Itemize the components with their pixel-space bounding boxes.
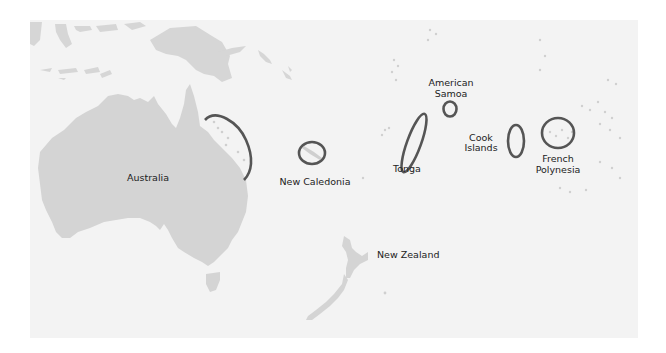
label-new-zealand: New Zealand xyxy=(377,249,439,260)
label-australia: Australia xyxy=(127,172,169,183)
label-american-samoa-line2: Samoa xyxy=(435,88,468,99)
label-american-samoa-line1: American xyxy=(428,77,473,88)
oceania-map: Australia New Caledonia Tonga American S… xyxy=(0,0,666,353)
label-new-caledonia: New Caledonia xyxy=(279,176,350,187)
label-french-polynesia-line2: Polynesia xyxy=(536,164,581,175)
label-tonga: Tonga xyxy=(392,163,421,174)
label-cook-islands-line2: Islands xyxy=(464,142,497,153)
label-french-polynesia-line1: French xyxy=(542,153,574,164)
